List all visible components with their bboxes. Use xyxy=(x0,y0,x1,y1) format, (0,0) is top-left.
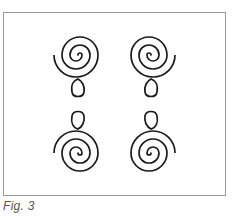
figure-caption: Fig. 3 xyxy=(3,199,35,213)
spiral-top-left xyxy=(54,37,98,97)
spiral-top-right xyxy=(131,37,175,97)
spiral-bottom-left xyxy=(54,112,98,172)
spiral-bottom-right xyxy=(131,112,175,172)
spiral-figure xyxy=(0,0,232,221)
